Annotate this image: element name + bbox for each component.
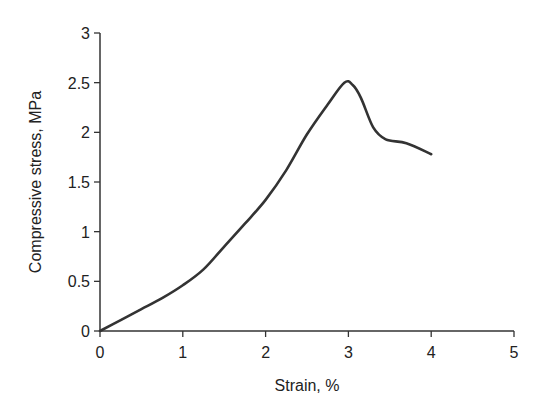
plot-area: [100, 81, 431, 331]
y-tick-label: 2.5: [68, 75, 90, 92]
y-tick-label: 0: [81, 323, 90, 340]
y-axis: 00.511.522.53: [68, 25, 100, 340]
y-tick-label: 1.5: [68, 174, 90, 191]
x-tick-label: 0: [96, 344, 105, 361]
y-tick-label: 2: [81, 124, 90, 141]
y-tick-label: 0.5: [68, 273, 90, 290]
x-tick-label: 4: [427, 344, 436, 361]
data-series-line: [100, 81, 431, 331]
x-tick-label: 1: [178, 344, 187, 361]
x-tick-label: 2: [261, 344, 270, 361]
y-tick-label: 1: [81, 224, 90, 241]
y-tick-label: 3: [81, 25, 90, 42]
x-axis: 012345: [96, 331, 519, 361]
y-axis-title: Compressive stress, MPa: [27, 91, 44, 273]
x-tick-label: 5: [510, 344, 519, 361]
x-tick-label: 3: [344, 344, 353, 361]
stress-strain-chart: 00.511.522.53 012345 Strain, % Compressi…: [0, 0, 550, 417]
x-axis-title: Strain, %: [275, 377, 340, 394]
